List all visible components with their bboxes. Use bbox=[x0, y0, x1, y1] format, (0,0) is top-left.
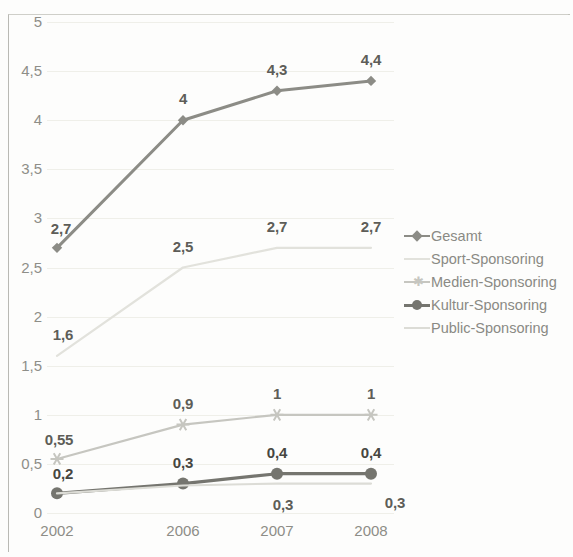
legend-item-gesamt[interactable]: Gesamt bbox=[404, 224, 570, 247]
series-line bbox=[57, 81, 371, 248]
series-medien-sponsoring bbox=[51, 409, 378, 464]
y-axis-tick-label: 3 bbox=[34, 210, 42, 225]
legend-item-medien-sponsoring[interactable]: ✱Medien-Sponsoring bbox=[404, 270, 570, 293]
legend-item-label: Medien-Sponsoring bbox=[431, 275, 557, 289]
gridline bbox=[47, 513, 394, 514]
data-point-marker bbox=[271, 468, 283, 480]
data-label: 4,4 bbox=[361, 50, 381, 67]
chart-figure: 00,511,522,533,544,55 2,744,34,41,62,52,… bbox=[0, 0, 573, 557]
y-axis-tick-label: 3,5 bbox=[21, 161, 42, 176]
data-label: 0,4 bbox=[361, 443, 381, 460]
data-point-marker bbox=[51, 453, 64, 464]
x-axis: 2002200620072008 bbox=[47, 522, 394, 546]
y-axis-tick-label: 4 bbox=[34, 112, 42, 127]
y-axis-tick-label: 0 bbox=[34, 505, 42, 520]
data-point-marker bbox=[271, 409, 284, 420]
data-label: 1,6 bbox=[53, 325, 73, 342]
series-line bbox=[57, 248, 371, 356]
data-label: 2,5 bbox=[173, 237, 193, 254]
data-label: 1 bbox=[367, 384, 375, 401]
data-label: 0,9 bbox=[173, 394, 193, 411]
legend-item-label: Sport-Sponsoring bbox=[431, 252, 544, 266]
y-axis-tick-label: 2,5 bbox=[21, 260, 42, 275]
data-label: 1 bbox=[273, 384, 281, 401]
series-line bbox=[57, 415, 371, 459]
y-axis-tick-label: 4,5 bbox=[21, 63, 42, 78]
legend-item-kultur-sponsoring[interactable]: Kultur-Sponsoring bbox=[404, 293, 570, 316]
star-line-key: ✱ bbox=[404, 275, 430, 289]
data-point-marker bbox=[177, 419, 190, 430]
y-axis-tick-label: 2 bbox=[34, 309, 42, 324]
data-label: 4 bbox=[179, 90, 187, 107]
plot-area: 2,744,34,41,62,52,72,70,550,9110,20,30,4… bbox=[47, 22, 394, 513]
data-label: 0,55 bbox=[45, 430, 73, 447]
series-sport-sponsoring bbox=[57, 248, 371, 356]
chart-legend: GesamtSport-Sponsoring ✱Medien-Sponsorin… bbox=[404, 224, 570, 339]
y-axis-tick-label: 1 bbox=[34, 407, 42, 422]
data-point-marker bbox=[365, 468, 377, 480]
data-label: 2,7 bbox=[267, 217, 287, 234]
faint-line-key bbox=[404, 252, 430, 266]
legend-item-public-sponsoring[interactable]: Public-Sponsoring bbox=[404, 316, 570, 339]
data-point-marker bbox=[177, 478, 189, 490]
y-axis-tick-label: 0,5 bbox=[21, 456, 42, 471]
data-point-marker bbox=[272, 86, 282, 96]
data-point-marker bbox=[365, 409, 378, 420]
series-layer bbox=[47, 22, 394, 513]
y-axis-tick-label: 5 bbox=[34, 14, 42, 29]
data-label: 0,3 bbox=[273, 495, 293, 512]
dashed-line-key bbox=[404, 321, 430, 335]
y-axis: 00,511,522,533,544,55 bbox=[0, 22, 42, 513]
circle-line-key bbox=[404, 298, 430, 312]
legend-item-label: Public-Sponsoring bbox=[431, 321, 549, 335]
data-label: 0,4 bbox=[267, 443, 287, 460]
y-axis-tick-label: 1,5 bbox=[21, 358, 42, 373]
x-axis-tick-label: 2002 bbox=[40, 522, 73, 539]
legend-item-label: Gesamt bbox=[431, 229, 482, 243]
data-label: 2,7 bbox=[51, 219, 71, 236]
legend-item-label: Kultur-Sponsoring bbox=[431, 298, 547, 312]
x-axis-tick-label: 2008 bbox=[354, 522, 387, 539]
data-label: 4,3 bbox=[267, 60, 287, 77]
x-axis-tick-label: 2007 bbox=[260, 522, 293, 539]
diamond-line-key bbox=[404, 229, 430, 243]
data-label: 0,2 bbox=[53, 465, 73, 482]
legend-item-sport-sponsoring[interactable]: Sport-Sponsoring bbox=[404, 247, 570, 270]
data-label: 0,3 bbox=[173, 453, 193, 470]
data-point-marker bbox=[366, 76, 376, 86]
x-axis-tick-label: 2006 bbox=[166, 522, 199, 539]
series-gesamt bbox=[52, 76, 376, 253]
data-label: 2,7 bbox=[361, 217, 381, 234]
data-label: 0,3 bbox=[385, 493, 405, 510]
